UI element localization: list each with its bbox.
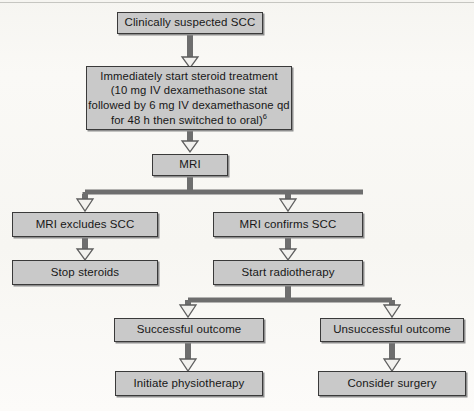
- node-mri[interactable]: MRI: [152, 154, 228, 176]
- node-consider-surgery[interactable]: Consider surgery: [318, 371, 466, 396]
- node-clinically-suspected-scc[interactable]: Clinically suspected SCC: [117, 12, 263, 34]
- edge-steroids-to-mri: [182, 130, 198, 152]
- node-label-line-1: Immediately start steroid treatment: [100, 69, 277, 84]
- node-successful-outcome[interactable]: Successful outcome: [114, 318, 264, 342]
- node-start-steroid-treatment[interactable]: Immediately start steroid treatment (10 …: [86, 66, 292, 130]
- node-label: MRI: [175, 158, 204, 172]
- edge-unsuccessful-to-surgery: [384, 342, 400, 371]
- node-start-radiotherapy[interactable]: Start radiotherapy: [213, 260, 363, 285]
- node-label: Successful outcome: [133, 323, 246, 337]
- node-mri-confirms-scc[interactable]: MRI confirms SCC: [213, 212, 363, 237]
- edge-confirms-to-radiotherapy: [280, 237, 296, 260]
- node-label-line-2: (10 mg IV dexamethasone stat: [111, 83, 268, 98]
- connector-layer: .bar { stroke:#6e6e6e; stroke-width:6; }…: [0, 0, 474, 411]
- node-label: MRI excludes SCC: [32, 218, 139, 232]
- node-label: Unsuccessful outcome: [329, 323, 455, 337]
- node-mri-excludes-scc[interactable]: MRI excludes SCC: [12, 212, 158, 237]
- footnote-marker: 6: [263, 112, 267, 121]
- node-label: Consider surgery: [343, 377, 440, 391]
- edge-suspected-to-steroids: [182, 34, 198, 68]
- node-unsuccessful-outcome[interactable]: Unsuccessful outcome: [320, 318, 464, 342]
- node-label-line-4-text: for 48 h then switched to oral): [111, 114, 263, 126]
- node-stop-steroids[interactable]: Stop steroids: [12, 260, 158, 285]
- edge-mri-split: [77, 176, 363, 211]
- node-label: Initiate physiotherapy: [130, 377, 249, 391]
- node-label: Clinically suspected SCC: [121, 16, 260, 30]
- node-label: Stop steroids: [47, 266, 123, 280]
- node-initiate-physiotherapy[interactable]: Initiate physiotherapy: [115, 371, 263, 396]
- node-label: MRI confirms SCC: [236, 218, 341, 232]
- node-label-line-4: for 48 h then switched to oral)6: [111, 113, 267, 128]
- node-label-line-3: followed by 6 mg IV dexamethasone qd: [88, 98, 289, 113]
- edge-excludes-to-stop: [77, 237, 93, 260]
- flowchart-page: .bar { stroke:#6e6e6e; stroke-width:6; }…: [0, 0, 474, 411]
- node-label: Start radiotherapy: [237, 266, 338, 280]
- edge-successful-to-physiotherapy: [180, 342, 196, 371]
- edge-radiotherapy-split: [180, 285, 400, 317]
